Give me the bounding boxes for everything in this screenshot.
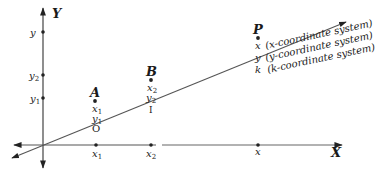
point-p-y: y <box>254 52 261 63</box>
y1-tick-label: y1 <box>29 93 40 106</box>
point-a-k: O <box>92 123 100 134</box>
y-tick-dot <box>41 30 45 34</box>
x2-tick-dot <box>149 143 153 147</box>
point-p-label: P <box>252 22 264 37</box>
y1-tick-dot <box>41 96 45 100</box>
coordinate-diagram: Y X y y2 y1 x1 x2 x A x1 y1 O B x2 y2 I … <box>0 0 388 177</box>
point-a-label: A <box>88 85 100 100</box>
x2-tick-label: x2 <box>146 148 156 161</box>
point-b-label: B <box>145 64 157 79</box>
point-p-k: k <box>255 64 261 75</box>
point-p-x: x <box>255 40 261 51</box>
y2-tick-dot <box>41 73 45 77</box>
x-axis-label: X <box>330 145 342 160</box>
x1-tick-label: x1 <box>92 148 102 161</box>
point-b-k: I <box>149 105 153 115</box>
y-axis-label: Y <box>52 6 63 21</box>
y2-tick-label: y2 <box>28 70 39 83</box>
x1-tick-dot <box>94 143 98 147</box>
x-tick-label: x <box>255 146 261 157</box>
y-tick-label: y <box>29 27 36 38</box>
